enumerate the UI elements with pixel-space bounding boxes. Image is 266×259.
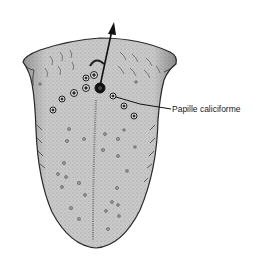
tongue [23,38,176,248]
label-papille-caliciforme: Papille caliciforme [172,104,241,114]
tongue-diagram: Papille caliciforme [0,0,266,259]
arrow-head-icon [108,22,116,35]
